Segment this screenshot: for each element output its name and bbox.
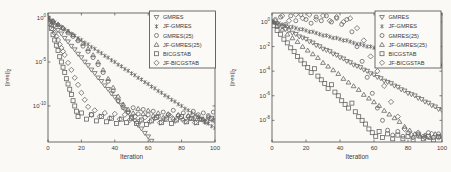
x-tick-label: 40 [111,145,118,151]
x-tick-label: 40 [337,145,344,151]
y-tick-label: 10-8 [259,115,270,123]
legend-label: BICGSTAB [163,51,191,57]
legend-label: JF-BICGSTAB [163,60,199,66]
y-tick-label: 10-10 [33,101,47,109]
x-tick-label: 0 [46,145,50,151]
x-tick-label: 0 [270,145,274,151]
legend-label: GMRES(25) [163,33,194,39]
legend-label: JF-GMRES(25) [163,42,202,48]
legend-label: GMRES [163,14,184,20]
x-tick-label: 60 [145,145,152,151]
y-axis-label: ||res||2 [228,68,237,86]
right-convergence-plot: 020406080100Iteration10010-210-410-610-8… [225,0,451,172]
paper-figure-convergence: 020406080100Iteration10010-510-10||res||… [0,0,451,172]
y-tick-label: 10-6 [259,91,270,99]
left-convergence-plot: 020406080100Iteration10010-510-10||res||… [0,0,225,172]
x-tick-label: 20 [303,145,310,151]
x-axis-label: Iteration [345,153,369,160]
x-tick-label: 100 [437,145,448,151]
legend-label: GMRES [389,14,410,20]
x-tick-label: 80 [405,145,412,151]
x-tick-label: 80 [178,145,185,151]
y-tick-label: 10-2 [259,42,270,50]
legend-label: JF-GMRES(25) [389,42,428,48]
y-tick-label: 100 [37,13,47,21]
series-gmres [46,16,154,143]
x-tick-label: 20 [78,145,85,151]
y-tick-label: 10-4 [259,66,270,74]
legend-label: JF-GMRES [389,23,418,29]
x-axis-label: Iteration [120,153,144,160]
x-tick-label: 60 [371,145,378,151]
y-tick-label: 10-5 [35,57,46,65]
x-tick-label: 100 [210,145,221,151]
y-axis-label: ||res||2 [3,68,12,86]
legend-label: JF-GMRES [163,23,192,29]
legend-label: BICGSTAB [389,51,417,57]
y-tick-label: 100 [261,17,271,25]
legend: GMRESJF-GMRESGMRES(25)JF-GMRES(25)BICGST… [150,11,216,68]
legend-label: GMRES(25) [389,33,420,39]
legend-label: JF-BICGSTAB [389,60,425,66]
legend: GMRESJF-GMRESGMRES(25)JF-GMRES(25)BICGST… [375,11,441,68]
